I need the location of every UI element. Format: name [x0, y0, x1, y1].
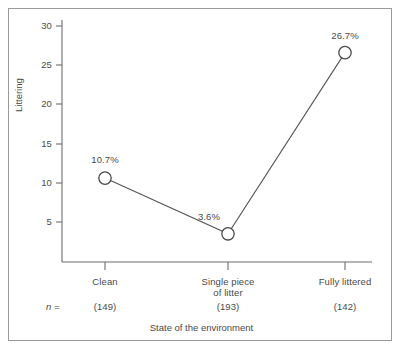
data-line — [105, 53, 345, 234]
sample-size-clean: (149) — [60, 301, 150, 312]
y-tick-label-5: 5 — [26, 216, 52, 227]
data-label-clean: 10.7% — [76, 154, 134, 165]
sample-size-prefix: n = — [46, 301, 60, 312]
y-tick-label-25: 25 — [26, 59, 52, 70]
x-category-label-single-piece-line2: of litter — [213, 287, 242, 298]
x-category-label-fully: Fully littered — [300, 276, 390, 287]
x-category-label-single-piece-line1: Single piece — [202, 276, 255, 287]
figure: 30 25 20 15 10 5 Littering 10.7% 3.6% 26… — [0, 0, 403, 354]
y-axis-title: Littering — [13, 78, 24, 112]
y-tick-label-30: 30 — [26, 20, 52, 31]
data-label-single-piece: 3.6% — [180, 211, 238, 222]
data-point-single-piece — [222, 228, 234, 240]
data-point-clean — [99, 172, 111, 184]
data-point-fully — [339, 46, 351, 58]
x-axis-title: State of the environment — [0, 322, 403, 333]
sample-size-single-piece: (193) — [183, 301, 273, 312]
y-tick-label-10: 10 — [26, 177, 52, 188]
y-tick-label-15: 15 — [26, 138, 52, 149]
x-category-label-single-piece: Single piece of litter — [183, 276, 273, 298]
x-category-label-clean: Clean — [60, 276, 150, 287]
y-tick-label-20: 20 — [26, 98, 52, 109]
sample-size-fully: (142) — [300, 301, 390, 312]
data-label-fully: 26.7% — [316, 30, 374, 41]
